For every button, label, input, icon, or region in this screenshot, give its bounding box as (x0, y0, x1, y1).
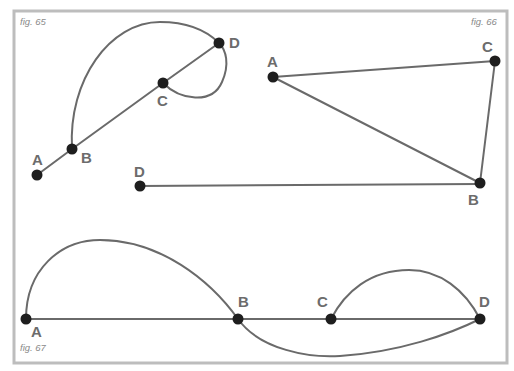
figure-caption: fig. 67 (20, 342, 47, 353)
node-label: A (31, 323, 42, 340)
node-label: A (32, 151, 43, 168)
node-label: B (468, 191, 479, 208)
node-b (475, 178, 486, 189)
node-c (326, 314, 337, 325)
node-label: D (134, 163, 145, 180)
node-a (32, 170, 43, 181)
node-label: C (482, 38, 493, 55)
node-c (158, 78, 169, 89)
node-label: B (238, 293, 249, 310)
node-label: D (229, 34, 240, 51)
node-label: C (157, 92, 168, 109)
node-a (21, 314, 32, 325)
node-c (490, 56, 501, 67)
figure-frame (14, 11, 507, 363)
node-d (214, 38, 225, 49)
node-d (135, 181, 146, 192)
figure-caption: fig. 65 (20, 16, 47, 27)
node-b (233, 314, 244, 325)
figure-caption: fig. 66 (471, 16, 498, 27)
node-label: C (317, 293, 328, 310)
node-label: D (479, 293, 490, 310)
node-a (268, 72, 279, 83)
node-d (475, 314, 486, 325)
node-label: B (81, 149, 92, 166)
node-label: A (267, 53, 278, 70)
graph-figures-canvas: fig. 65 A B C D fig. 66 A B C D fig. 67 (0, 0, 514, 371)
node-b (67, 144, 78, 155)
